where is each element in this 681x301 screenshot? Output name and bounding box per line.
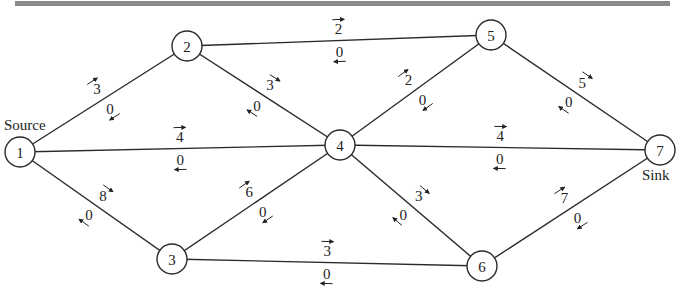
node-label: 1 xyxy=(16,145,24,161)
edge-3-6: 30 xyxy=(172,241,482,283)
edge-backward-capacity: 0 xyxy=(574,210,582,226)
edge-backward-capacity: 0 xyxy=(85,207,93,223)
node-label: 7 xyxy=(656,143,664,159)
edge-4-5: 20 xyxy=(340,35,491,145)
edge-backward-capacity: 0 xyxy=(336,44,344,60)
edge-forward-capacity: 5 xyxy=(579,75,587,91)
edge-6-7: 70 xyxy=(482,150,660,266)
node-label: 5 xyxy=(487,28,495,44)
edge-backward-capacity: 0 xyxy=(565,94,573,110)
edge-forward-capacity: 3 xyxy=(415,188,423,204)
edge-backward-capacity: 0 xyxy=(253,98,261,114)
edge-backward-capacity: 0 xyxy=(259,204,267,220)
node-label: 6 xyxy=(478,259,486,275)
node-4: 4 xyxy=(325,130,355,160)
edge-forward-capacity: 6 xyxy=(246,184,254,200)
edge-forward-capacity: 4 xyxy=(496,128,504,144)
node-3: 3 xyxy=(157,244,187,274)
edge-forward-capacity: 7 xyxy=(561,190,569,206)
edge-forward-capacity: 2 xyxy=(335,21,343,37)
edge-backward-capacity: 0 xyxy=(496,151,504,167)
flow-network-diagram: 304080203060302040305070 1234567 Source … xyxy=(0,0,681,301)
edge-5-7: 50 xyxy=(491,35,660,150)
edge-backward-capacity: 0 xyxy=(106,101,114,117)
edge-backward-capacity: 0 xyxy=(323,266,331,282)
node-7: 7 xyxy=(645,135,675,165)
node-5: 5 xyxy=(476,20,506,50)
edge-forward-capacity: 2 xyxy=(405,72,413,88)
edge-3-4: 60 xyxy=(172,145,340,259)
edge-forward-capacity: 8 xyxy=(99,188,107,204)
edge-forward-capacity: 3 xyxy=(93,81,101,97)
edge-4-7: 40 xyxy=(340,126,660,168)
node-label: 2 xyxy=(183,39,191,55)
edge-backward-capacity: 0 xyxy=(419,92,427,108)
edge-backward-capacity: 0 xyxy=(177,152,185,168)
node-1: 1 xyxy=(5,137,35,167)
node-2: 2 xyxy=(172,31,202,61)
node-6: 6 xyxy=(467,251,497,281)
edge-forward-capacity: 4 xyxy=(176,129,184,145)
edge-forward-capacity: 3 xyxy=(324,243,332,259)
edge-backward-capacity: 0 xyxy=(399,207,407,223)
edge-2-4: 30 xyxy=(187,46,340,145)
edge-1-2: 30 xyxy=(20,46,187,152)
edge-2-5: 20 xyxy=(187,19,491,61)
node-label: 3 xyxy=(168,252,176,268)
edge-forward-capacity: 3 xyxy=(266,77,274,93)
edge-4-6: 30 xyxy=(340,145,482,266)
node-label: 4 xyxy=(336,138,344,154)
edge-1-3: 80 xyxy=(20,152,172,259)
edge-1-4: 40 xyxy=(20,127,340,169)
sink-label: Sink xyxy=(642,167,670,183)
source-label: Source xyxy=(4,117,46,133)
